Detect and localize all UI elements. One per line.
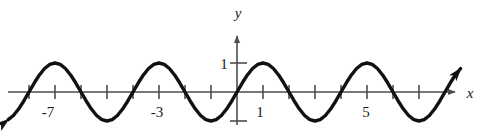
x-tick-label-5: 5 xyxy=(362,104,370,120)
sine-graph-figure: -7 -3 1 5 1 x y xyxy=(0,0,485,138)
x-tick-label--7: -7 xyxy=(42,104,55,120)
x-tick-label--3: -3 xyxy=(151,104,164,120)
axis-name-labels: x y xyxy=(233,5,474,101)
x-axis-label: x xyxy=(466,85,474,101)
y-tick-label-1: 1 xyxy=(220,56,228,72)
plot-canvas: -7 -3 1 5 1 x y xyxy=(0,0,485,138)
x-tick-label-1: 1 xyxy=(256,104,264,120)
y-axis-label: y xyxy=(233,5,242,21)
